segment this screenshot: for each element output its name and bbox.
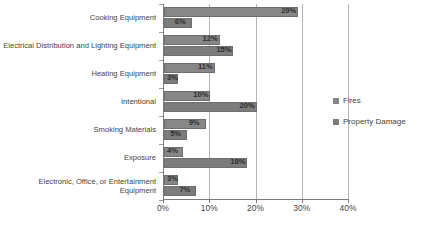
bar-value-label: 15%	[216, 45, 231, 55]
bar-value-label: 10%	[193, 90, 208, 100]
bar-value-label: 6%	[175, 17, 186, 27]
bar-value-label: 12%	[203, 34, 218, 44]
bar-fires	[164, 7, 298, 17]
bar-value-label: 11%	[198, 62, 213, 72]
bar-value-label: 5%	[170, 129, 181, 139]
x-axis-tick-label: 40%	[340, 203, 357, 213]
x-axis-tick-label: 30%	[293, 203, 310, 213]
x-axis-tick-label: 20%	[247, 203, 264, 213]
bar-group: 10%20%	[164, 88, 348, 116]
y-axis-tick	[159, 60, 163, 61]
legend-label: Fires	[343, 96, 361, 105]
legend-item[interactable]: Fires	[333, 96, 425, 105]
x-axis-tick-label: 10%	[201, 203, 218, 213]
bar-value-label: 3%	[167, 73, 178, 83]
bar-value-label: 3%	[167, 174, 178, 184]
bar-value-label: 20%	[240, 101, 255, 111]
y-axis-tick	[159, 172, 163, 173]
y-axis-tick	[159, 88, 163, 89]
bar-group: 9%5%	[164, 116, 348, 144]
bar-value-label: 9%	[189, 118, 200, 128]
category-axis-label: Smoking Materials	[0, 116, 156, 144]
category-axis-label: Intentional	[0, 88, 156, 116]
bar-group: 4%18%	[164, 144, 348, 172]
bar-group: 3%7%	[164, 172, 348, 200]
y-axis-tick	[159, 4, 163, 5]
bar-group: 29%6%	[164, 4, 348, 32]
bar-chart: Cooking EquipmentElectrical Distribution…	[0, 0, 425, 226]
bar-group: 12%15%	[164, 32, 348, 60]
category-axis-label: Electronic, Office, or Entertainment Equ…	[0, 172, 156, 200]
y-axis-tick	[159, 116, 163, 117]
x-axis-tick-label: 0%	[157, 203, 169, 213]
bar-value-label: 18%	[230, 157, 245, 167]
category-axis-label: Cooking Equipment	[0, 4, 156, 32]
bar-group: 11%3%	[164, 60, 348, 88]
category-axis-label: Electrical Distribution and Lighting Equ…	[0, 32, 156, 60]
y-axis-tick	[159, 200, 163, 201]
category-axis-label: Heating Equipment	[0, 60, 156, 88]
bar-value-label: 29%	[281, 6, 296, 16]
category-axis: Cooking EquipmentElectrical Distribution…	[0, 4, 160, 200]
legend-item[interactable]: Property Damage	[333, 117, 425, 126]
y-axis-tick	[159, 144, 163, 145]
legend-label: Property Damage	[343, 117, 406, 126]
legend-swatch-icon	[333, 119, 339, 125]
plot-area: 29%6%12%15%11%3%10%20%9%5%4%18%3%7%	[163, 4, 348, 200]
bar-value-label: 4%	[167, 146, 178, 156]
bar-value-label: 7%	[179, 185, 190, 195]
category-axis-label: Exposure	[0, 144, 156, 172]
chart-legend: FiresProperty Damage	[333, 96, 425, 138]
legend-swatch-icon	[333, 98, 339, 104]
y-axis-tick	[159, 32, 163, 33]
